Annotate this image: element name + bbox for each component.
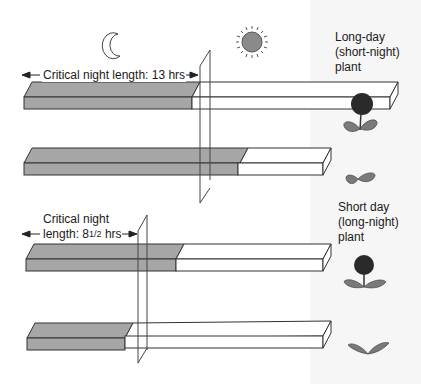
bar-short-day-2 <box>27 321 331 350</box>
plant-label-line: plant <box>335 60 400 75</box>
bar-long-day-1 <box>24 82 398 109</box>
plant-label-line: Long-day <box>335 30 400 45</box>
critical-night-length-8h-label-line2: length: 81/2 hrs <box>43 227 122 241</box>
critical-night-length-8h-label-line1: Critical night <box>43 212 109 226</box>
critical-night-length-13h-label: Critical night length: 13 hrs <box>42 68 186 82</box>
bar-short-day-1 <box>26 244 331 271</box>
vegetative-plant-icon <box>346 173 375 184</box>
critical-threshold-plane-13h <box>200 50 210 203</box>
label-fraction: 1/2 <box>89 227 102 241</box>
long-day-plant-label: Long-day (short-night) plant <box>335 30 400 75</box>
plant-label-line: plant <box>338 230 399 245</box>
sun-icon <box>236 26 268 58</box>
short-day-plant-label: Short day (long-night) plant <box>338 200 399 245</box>
plant-label-line: (short-night) <box>335 45 400 60</box>
flowering-plant-icon <box>344 255 386 288</box>
crescent-moon-icon <box>102 33 120 59</box>
label-suffix: hrs <box>102 227 122 241</box>
label-prefix: length: 8 <box>43 227 89 241</box>
bar-long-day-2 <box>24 148 331 175</box>
plant-label-line: (long-night) <box>338 215 399 230</box>
plant-label-line: Short day <box>338 200 399 215</box>
vegetative-plant-icon <box>348 342 389 354</box>
